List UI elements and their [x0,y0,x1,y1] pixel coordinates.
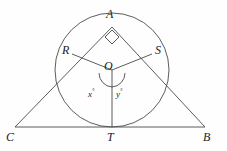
label-point-R: R [62,44,69,56]
label-angle-x-degree: ° [92,88,94,94]
angle-arc-y-icon [112,73,125,87]
label-point-T: T [107,131,114,143]
label-angle-x: x° [88,88,94,99]
side-AB [112,27,205,127]
label-point-S: S [155,44,161,56]
geometry-svg [0,0,227,151]
label-point-O: O [104,60,113,72]
radius-OS [112,54,152,70]
side-AC [15,27,112,127]
angle-arc-x-icon [99,73,112,87]
label-point-B: B [203,131,210,143]
label-point-A: A [106,8,113,20]
label-point-C: C [6,131,14,143]
label-angle-y-degree: ° [120,88,122,94]
label-angle-y: y° [116,88,122,99]
diagram-canvas: A R S O T C B x° y° [0,0,227,151]
